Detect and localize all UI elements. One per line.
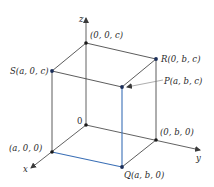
- edge-00c-R: [86, 43, 156, 59]
- label-a00: (a, 0, 0): [9, 143, 42, 153]
- label-0b0: (0, b, 0): [160, 127, 194, 137]
- point-P: [120, 85, 124, 89]
- point-R: [154, 57, 158, 61]
- labels: z y x 0 (a, 0, 0) (0, b, 0) Q(a, b, 0) (…: [9, 14, 202, 180]
- edge-a00-Q: [52, 152, 122, 167]
- point-a00: [50, 150, 54, 154]
- point-origin: [84, 123, 88, 127]
- edge-00c-S: [52, 43, 86, 71]
- point-0b0: [154, 138, 158, 142]
- z-axis-label: z: [78, 14, 84, 24]
- point-00c: [84, 41, 88, 45]
- box-coordinate-diagram: z y x 0 (a, 0, 0) (0, b, 0) Q(a, b, 0) (…: [0, 0, 214, 187]
- y-axis-label: y: [195, 153, 201, 163]
- axes: [31, 18, 200, 168]
- label-P: P(a, b, c): [163, 76, 202, 86]
- box-edges: [52, 43, 156, 167]
- label-S: S(a, 0, c): [10, 66, 49, 76]
- point-S: [50, 69, 54, 73]
- points: [50, 41, 158, 169]
- highlighted-edges: [52, 87, 122, 167]
- leader-line-P: [127, 80, 163, 87]
- edge-S-P: [52, 71, 122, 87]
- label-00c: (0, 0, c): [90, 30, 123, 40]
- x-axis-label: x: [23, 164, 28, 174]
- edge-0b0-Q: [122, 140, 156, 167]
- label-origin: 0: [77, 116, 82, 126]
- label-Q: Q(a, b, 0): [124, 170, 164, 180]
- label-R: R(0, b, c): [160, 54, 200, 64]
- edge-R-P: [122, 59, 156, 87]
- point-Q: [120, 165, 124, 169]
